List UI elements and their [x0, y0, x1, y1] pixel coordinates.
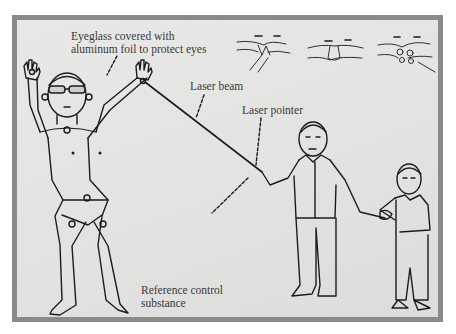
goggle-callout-arrow	[107, 56, 117, 75]
beam-extension-dashed	[212, 178, 248, 213]
beam-callout-arrow	[196, 95, 204, 118]
pointer-callout-arrow	[256, 118, 261, 165]
eyeglass-callout-label: Eyeglass covered with aluminum foil to p…	[71, 30, 206, 56]
marker-ear-right	[86, 94, 92, 100]
marker-ear-left	[42, 94, 48, 100]
hand-technique-1-icon	[237, 36, 290, 72]
eyeglass-label-line2: aluminum foil to protect eyes	[71, 43, 206, 56]
laser-beam-label: Laser beam	[190, 80, 243, 93]
hand-technique-2-icon	[308, 40, 363, 60]
inset-hand-panels	[237, 36, 435, 72]
marker-thigh-left	[69, 221, 75, 227]
reference-label-line2: substance	[141, 297, 223, 310]
laser-pointer-label: Laser pointer	[242, 104, 303, 117]
reference-control-label: Reference control substance	[141, 284, 223, 310]
operator-figure	[262, 122, 385, 296]
goggles-icon	[49, 86, 85, 93]
subject-figure	[24, 60, 152, 315]
reference-label-line1: Reference control	[141, 284, 223, 297]
diagram-artwork	[0, 0, 456, 334]
eyeglass-label-line1: Eyeglass covered with	[71, 30, 206, 43]
subject-head	[48, 73, 86, 117]
assistant-figure	[380, 164, 430, 310]
hand-technique-3-icon	[378, 37, 435, 72]
